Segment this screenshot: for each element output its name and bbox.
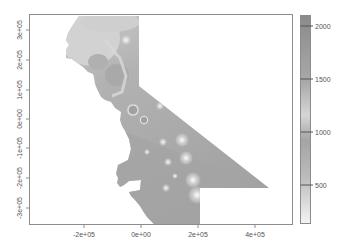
x-tick-label: 2e+05 (188, 231, 208, 238)
legend-tick-label: 2000 (315, 23, 331, 30)
legend-tick-label: 1000 (315, 129, 331, 136)
y-tick-label: 2e+05 (16, 50, 23, 70)
y-tick-label: -2e+05 (16, 167, 23, 189)
y-axis (26, 30, 30, 208)
y-tick-label: 3e+05 (16, 20, 23, 40)
x-tick-label: 0e+00 (131, 231, 151, 238)
x-tick-label: -2e+05 (73, 231, 95, 238)
legend-colorbar (301, 16, 311, 224)
legend-tick-label: 500 (315, 182, 327, 189)
y-tick-label: -3e+05 (16, 197, 23, 219)
y-tick-labels: 3e+05 2e+05 1e+05 0e+00 -1e+05 -2e+05 -3… (16, 20, 23, 219)
raster-map-chart: 3e+05 2e+05 1e+05 0e+00 -1e+05 -2e+05 -3… (0, 0, 351, 250)
y-tick-label: -1e+05 (16, 137, 23, 159)
map-raster (60, 10, 275, 226)
y-tick-label: 0e+00 (16, 109, 23, 129)
legend-tick-label: 1500 (315, 76, 331, 83)
color-legend: 2000 1500 1000 500 (301, 16, 331, 224)
x-tick-label: 4e+05 (245, 231, 265, 238)
y-tick-label: 1e+05 (16, 80, 23, 100)
x-tick-labels: -2e+05 0e+00 2e+05 4e+05 (73, 231, 265, 238)
x-axis (84, 225, 255, 229)
